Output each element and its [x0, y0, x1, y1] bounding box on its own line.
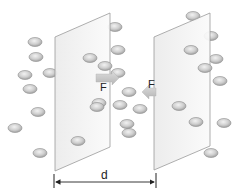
- particle: [217, 119, 231, 128]
- particle: [23, 85, 37, 94]
- particle: [31, 108, 45, 117]
- particle: [28, 38, 42, 47]
- particle: [120, 120, 134, 129]
- force-label-right: F: [148, 79, 155, 90]
- particle: [122, 88, 136, 97]
- particle: [71, 137, 85, 146]
- particle: [90, 103, 104, 112]
- particle: [209, 55, 223, 64]
- particle: [113, 101, 127, 110]
- force-label-left: F: [100, 82, 107, 93]
- particle: [184, 46, 198, 55]
- particle: [18, 71, 32, 80]
- particle: [111, 46, 125, 55]
- particle: [122, 129, 136, 138]
- particle: [189, 118, 203, 127]
- particle: [172, 102, 186, 111]
- particle: [98, 62, 112, 71]
- right-plate: [154, 13, 210, 170]
- particle: [133, 105, 147, 114]
- particle: [204, 149, 218, 158]
- diagram-canvas: [0, 0, 248, 194]
- parallel-plates-diagram: F F d: [0, 0, 248, 194]
- particle: [213, 77, 227, 86]
- particle: [8, 124, 22, 133]
- particle: [198, 64, 212, 73]
- distance-label: d: [101, 169, 108, 181]
- particle: [29, 53, 43, 62]
- particle: [33, 149, 47, 158]
- particle: [83, 54, 97, 63]
